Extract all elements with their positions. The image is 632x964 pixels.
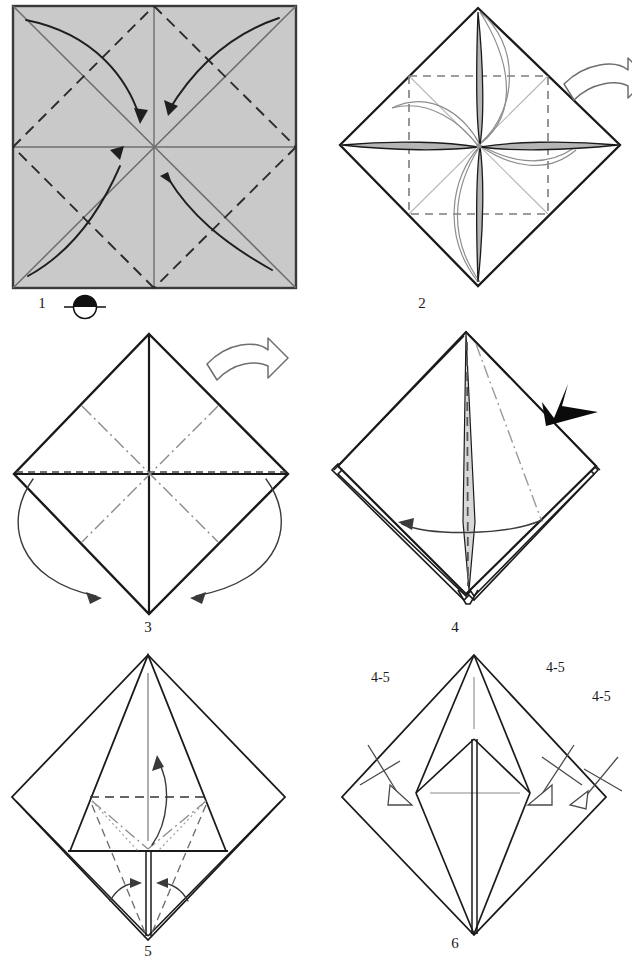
- repeat-label-left: 4-5: [371, 671, 390, 685]
- step-number-3: 3: [128, 620, 168, 635]
- step-1-panel: [0, 0, 320, 300]
- step-3-figure: [0, 322, 320, 622]
- step-2-panel: [330, 0, 632, 300]
- solid-push-arrowhead: [542, 384, 598, 426]
- step-number-6: 6: [435, 936, 475, 951]
- step-5-panel: [0, 645, 320, 955]
- four-point-star: [342, 12, 618, 282]
- hollow-turn-over-arrow: [207, 338, 288, 380]
- step-6-panel: [330, 645, 632, 955]
- diagram-sheet: 1: [0, 0, 632, 964]
- step-5-figure: [0, 645, 320, 955]
- step-number-5: 5: [128, 944, 168, 959]
- step-2-figure: [330, 0, 632, 300]
- hollow-turn-over-arrow: [564, 58, 632, 100]
- step-number-4: 4: [435, 620, 475, 635]
- step-1-figure: [0, 0, 320, 300]
- step-3-panel: [0, 322, 320, 622]
- step-number-2: 2: [402, 296, 442, 311]
- turn-over-symbol: [62, 292, 108, 322]
- step-4-panel: [330, 322, 632, 622]
- repeat-label-right-inner: 4-5: [546, 661, 565, 675]
- step-number-1: 1: [22, 296, 62, 311]
- step-6-figure: [330, 645, 632, 955]
- repeat-label-right-outer: 4-5: [592, 690, 611, 704]
- step-4-figure: [330, 322, 632, 622]
